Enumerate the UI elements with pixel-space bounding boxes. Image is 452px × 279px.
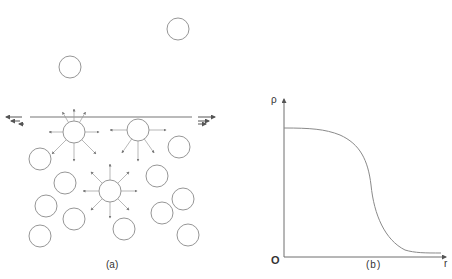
force-arrow	[52, 140, 66, 154]
panel-b-density-graph	[284, 99, 446, 257]
vapor-molecule	[59, 56, 81, 78]
liquid-molecule	[63, 208, 85, 230]
force-arrow	[82, 140, 96, 154]
liquid-molecule	[177, 224, 199, 246]
force-arrow	[122, 139, 132, 153]
density-curve	[284, 128, 441, 253]
force-arrow	[91, 172, 102, 183]
liquid-molecule	[29, 225, 51, 247]
x-axis-label: r	[444, 258, 447, 269]
force-arrow	[144, 139, 154, 153]
panel-a-caption: (a)	[106, 259, 118, 270]
force-arrow	[118, 199, 129, 210]
liquid-molecules	[29, 136, 199, 247]
liquid-molecule	[35, 195, 57, 217]
liquid-molecule	[151, 202, 173, 224]
surface-tension-arrows	[6, 117, 215, 124]
liquid-molecule	[54, 172, 76, 194]
figure-canvas	[0, 0, 452, 279]
liquid-molecule	[29, 148, 51, 170]
liquid-molecule	[172, 188, 194, 210]
force-arrow	[91, 199, 102, 210]
force-molecule	[127, 119, 149, 141]
panel-b-caption: (b)	[366, 259, 381, 270]
vapor-molecule	[167, 18, 189, 40]
panel-a-molecule-diagram	[6, 18, 215, 247]
force-arrow	[118, 172, 129, 183]
liquid-molecule	[146, 165, 168, 187]
y-axis-label: ρ	[271, 94, 277, 105]
force-molecule	[99, 180, 121, 202]
force-molecules	[49, 109, 166, 218]
liquid-molecule	[168, 136, 190, 158]
liquid-molecule	[113, 218, 135, 240]
force-molecule	[63, 121, 85, 143]
vapor-molecules	[59, 18, 189, 78]
origin-label: O	[271, 254, 280, 266]
